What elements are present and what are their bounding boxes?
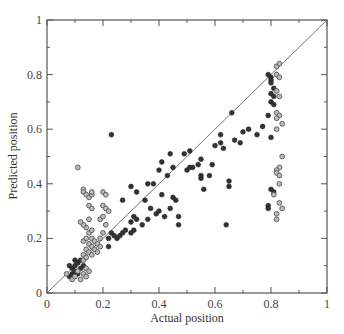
filled-data-point: [224, 222, 229, 227]
filled-data-point: [134, 190, 139, 195]
open-data-point: [78, 220, 83, 225]
filled-data-point: [165, 173, 170, 178]
filled-data-point: [190, 165, 195, 170]
open-data-point: [274, 217, 279, 222]
filled-data-point: [131, 228, 136, 233]
filled-data-point: [213, 143, 218, 148]
open-data-point: [277, 94, 282, 99]
filled-data-point: [182, 151, 187, 156]
filled-data-point: [227, 184, 232, 189]
filled-data-point: [207, 173, 212, 178]
open-data-point: [277, 75, 282, 80]
open-data-point: [277, 61, 282, 66]
open-data-point: [280, 206, 285, 211]
filled-data-point: [171, 165, 176, 170]
filled-data-point: [218, 140, 223, 145]
filled-data-point: [157, 168, 162, 173]
open-data-point: [64, 272, 69, 277]
filled-data-point: [168, 151, 173, 156]
y-tick-label: 0.8: [27, 68, 42, 82]
open-data-point: [89, 190, 94, 195]
open-data-point: [274, 116, 279, 121]
y-tick-label: 0.6: [27, 122, 42, 136]
filled-data-point: [266, 113, 271, 118]
open-data-point: [274, 89, 279, 94]
filled-data-point: [246, 127, 251, 132]
filled-data-point: [241, 130, 246, 135]
open-data-point: [89, 228, 94, 233]
filled-data-point: [271, 94, 276, 99]
filled-data-point: [159, 160, 164, 165]
x-tick-label: 0.2: [96, 297, 111, 311]
open-data-point: [101, 231, 106, 236]
filled-data-point: [106, 244, 111, 249]
filled-data-point: [129, 220, 134, 225]
open-data-point: [87, 217, 92, 222]
open-data-point: [101, 214, 106, 219]
open-data-point: [75, 269, 80, 274]
filled-data-point: [109, 132, 114, 137]
open-data-point: [84, 236, 89, 241]
x-tick-label: 0.8: [264, 297, 279, 311]
open-data-point: [280, 121, 285, 126]
open-data-point: [274, 127, 279, 132]
filled-data-point: [199, 157, 204, 162]
filled-data-point: [123, 228, 128, 233]
x-tick-label: 0: [44, 297, 50, 311]
open-data-point: [98, 244, 103, 249]
open-data-point: [73, 274, 78, 279]
open-data-point: [95, 250, 100, 255]
open-data-point: [271, 192, 276, 197]
filled-data-point: [229, 110, 234, 115]
filled-data-point: [196, 162, 201, 167]
filled-data-point: [168, 206, 173, 211]
filled-data-point: [73, 258, 78, 263]
filled-data-point: [260, 124, 265, 129]
x-tick-label: 1: [324, 297, 330, 311]
filled-data-point: [187, 149, 192, 154]
filled-data-point: [151, 181, 156, 186]
y-axis-label: Predicted position: [6, 113, 20, 200]
x-tick-label: 0.6: [208, 297, 223, 311]
open-data-point: [84, 274, 89, 279]
filled-data-point: [120, 198, 125, 203]
filled-data-point: [269, 135, 274, 140]
filled-data-point: [129, 184, 134, 189]
filled-data-point: [255, 132, 260, 137]
filled-data-point: [143, 198, 148, 203]
filled-data-point: [232, 138, 237, 143]
filled-data-point: [176, 222, 181, 227]
open-data-point: [98, 236, 103, 241]
filled-data-point: [157, 209, 162, 214]
open-data-point: [103, 192, 108, 197]
filled-data-point: [266, 206, 271, 211]
filled-data-point: [145, 181, 150, 186]
filled-data-point: [67, 263, 72, 268]
filled-data-point: [227, 179, 232, 184]
open-data-point: [89, 206, 94, 211]
open-data-point: [280, 154, 285, 159]
open-data-point: [75, 165, 80, 170]
filled-data-point: [271, 102, 276, 107]
x-tick-label: 0.4: [152, 297, 167, 311]
open-data-point: [277, 201, 282, 206]
y-tick-label: 0.2: [27, 231, 42, 245]
filled-data-point: [159, 192, 164, 197]
x-axis-label: Actual position: [150, 311, 224, 325]
filled-data-point: [134, 217, 139, 222]
filled-data-point: [221, 146, 226, 151]
y-tick-label: 1: [36, 13, 42, 27]
filled-data-point: [201, 187, 206, 192]
filled-data-point: [162, 214, 167, 219]
filled-data-point: [218, 132, 223, 137]
filled-data-point: [269, 80, 274, 85]
filled-data-point: [145, 217, 150, 222]
filled-data-point: [176, 214, 181, 219]
open-data-point: [106, 209, 111, 214]
filled-data-point: [210, 162, 215, 167]
filled-data-point: [238, 140, 243, 145]
filled-data-point: [199, 176, 204, 181]
filled-data-point: [106, 236, 111, 241]
open-data-point: [103, 222, 108, 227]
open-data-point: [274, 211, 279, 216]
